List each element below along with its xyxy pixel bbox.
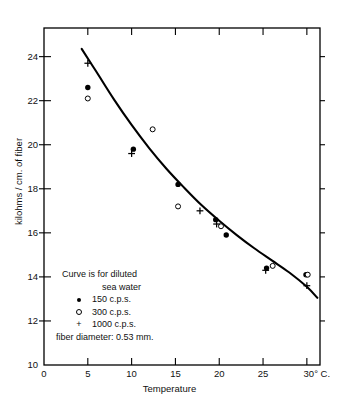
y-tick-label: 16 — [14, 228, 38, 238]
legend-caption-line1: Curve is for diluted — [62, 268, 154, 281]
data-point-open — [305, 272, 310, 277]
chart-figure: kilohms / cm. of fiber Temperature Curve… — [0, 0, 339, 399]
chart-legend: Curve is for diluted sea water 150 c.p.s… — [56, 268, 154, 344]
series-3 — [84, 60, 310, 289]
legend-label-300: 300 c.p.s. — [92, 306, 131, 319]
data-point-filled — [224, 232, 229, 237]
series-1 — [85, 85, 309, 278]
legend-caption-line2: sea water — [102, 281, 154, 294]
x-tick-label: 5 — [73, 369, 103, 379]
series-2 — [85, 96, 310, 277]
x-tick-label: 0 — [29, 369, 59, 379]
y-tick-label: 22 — [14, 96, 38, 106]
x-tick-label: 10 — [117, 369, 147, 379]
legend-label-1000: 1000 c.p.s. — [92, 318, 136, 331]
legend-label-150: 150 c.p.s. — [92, 293, 131, 306]
data-point-filled — [85, 85, 90, 90]
data-point-filled — [175, 182, 180, 187]
data-point-open — [85, 96, 90, 101]
data-point-open — [150, 127, 155, 132]
filled-circle-icon — [72, 293, 86, 306]
legend-item-150: 150 c.p.s. — [72, 293, 154, 306]
y-tick-label: 24 — [14, 52, 38, 62]
x-tick-label: 15 — [160, 369, 190, 379]
y-tick-label: 20 — [14, 140, 38, 150]
plus-icon: + — [72, 318, 86, 331]
chart-canvas — [0, 0, 339, 399]
x-axis-title: Temperature — [0, 383, 339, 394]
x-tick-label: 20 — [204, 369, 234, 379]
x-tick-label: 25 — [248, 369, 278, 379]
x-tick-label: 30° C. — [294, 369, 339, 379]
legend-item-1000: + 1000 c.p.s. — [72, 318, 154, 331]
data-point-filled — [213, 217, 218, 222]
y-tick-label: 12 — [14, 316, 38, 326]
y-tick-label: 18 — [14, 184, 38, 194]
data-point-open — [176, 204, 181, 209]
data-point-open — [270, 263, 275, 268]
fitted-curve — [82, 49, 318, 298]
legend-item-300: 300 c.p.s. — [72, 306, 154, 319]
legend-footnote: fiber diameter: 0.53 mm. — [56, 331, 154, 344]
y-tick-label: 14 — [14, 272, 38, 282]
open-circle-icon — [72, 306, 86, 319]
